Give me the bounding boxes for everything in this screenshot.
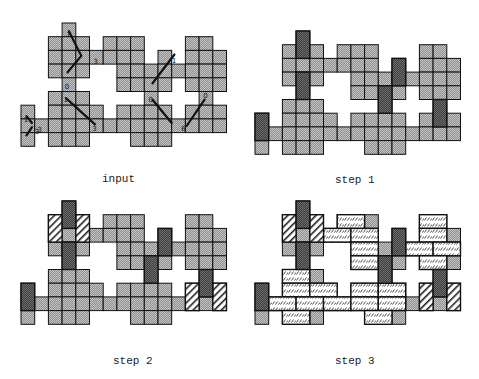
horizontal-domino (310, 283, 337, 297)
free-cell (296, 228, 310, 242)
horizontal-domino (406, 242, 433, 256)
hatched-vertical-domino (310, 215, 324, 242)
free-cell (282, 242, 296, 256)
free-cell (447, 228, 461, 242)
free-cell (433, 297, 447, 311)
horizontal-domino (351, 283, 378, 297)
dark-vertical-domino (296, 201, 310, 228)
horizontal-domino (269, 297, 296, 311)
horizontal-domino (282, 311, 309, 325)
horizontal-domino (419, 215, 446, 229)
horizontal-domino (433, 242, 460, 256)
free-cell (392, 311, 406, 325)
horizontal-domino (337, 215, 364, 229)
dark-vertical-domino (296, 242, 310, 269)
horizontal-domino (282, 270, 309, 284)
dark-vertical-domino (255, 283, 269, 310)
horizontal-domino (324, 228, 351, 242)
free-cell (378, 242, 392, 256)
dark-vertical-domino (392, 228, 406, 255)
horizontal-domino (282, 283, 309, 297)
free-cell (392, 256, 406, 270)
horizontal-domino (296, 297, 323, 311)
horizontal-domino (365, 311, 392, 325)
horizontal-domino (378, 297, 405, 311)
dark-vertical-domino (378, 256, 392, 283)
horizontal-domino (351, 242, 378, 256)
free-cell (447, 256, 461, 270)
horizontal-domino (324, 297, 351, 311)
free-cell (255, 311, 269, 325)
hatched-vertical-domino (282, 215, 296, 242)
free-cell (310, 270, 324, 284)
caption-step3: step 3 (335, 355, 375, 367)
free-cell (406, 297, 420, 311)
free-cell (310, 242, 324, 256)
horizontal-domino (419, 256, 446, 270)
horizontal-domino (351, 297, 378, 311)
horizontal-domino (351, 228, 378, 242)
free-cell (310, 311, 324, 325)
free-cell (365, 215, 379, 229)
hatched-vertical-domino (447, 283, 461, 310)
hatched-vertical-domino (419, 283, 433, 310)
grid-step3 (0, 0, 479, 379)
panel-step3 (0, 0, 479, 379)
horizontal-domino (378, 283, 405, 297)
horizontal-domino (419, 228, 446, 242)
horizontal-domino (351, 256, 378, 270)
dark-vertical-domino (433, 270, 447, 297)
